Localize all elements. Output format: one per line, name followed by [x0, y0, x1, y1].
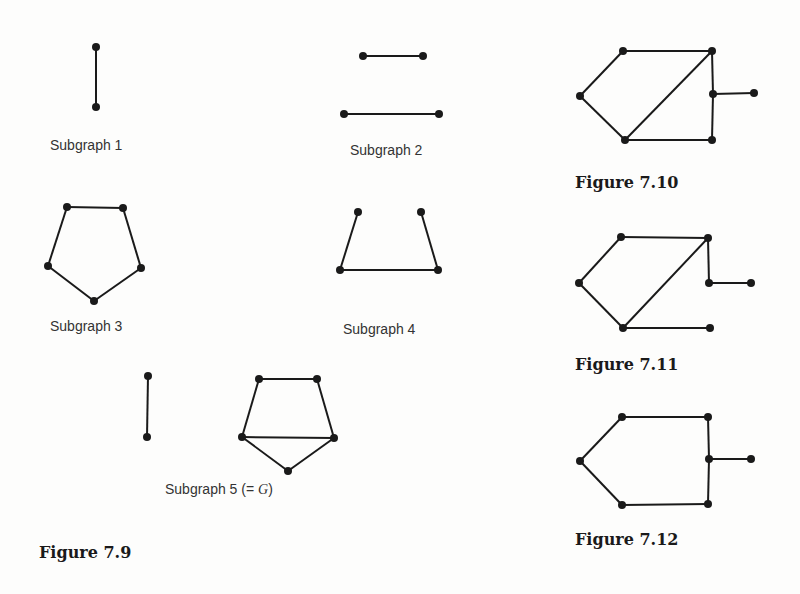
figure-7-11: [575, 233, 755, 332]
vertex: [705, 279, 713, 287]
vertex: [619, 47, 627, 55]
edge: [713, 93, 754, 94]
figure-7-10-caption: Figure 7.10: [575, 173, 678, 192]
subgraph-5: [143, 372, 338, 475]
vertex: [704, 234, 712, 242]
vertex: [621, 136, 629, 144]
vertex: [619, 324, 627, 332]
vertex: [119, 204, 127, 212]
edge: [67, 207, 123, 208]
vertex: [359, 52, 367, 60]
vertex: [336, 266, 344, 274]
edge: [242, 379, 259, 437]
caption-subgraph-3: Subgraph 3: [50, 318, 122, 334]
vertex: [144, 372, 152, 380]
edge: [621, 237, 708, 238]
edge: [708, 459, 709, 504]
vertex: [137, 264, 145, 272]
vertex: [709, 90, 717, 98]
vertex: [708, 136, 716, 144]
figure-7-9-caption: Figure 7.9: [39, 543, 131, 562]
edge: [712, 51, 713, 94]
vertex: [92, 103, 100, 111]
figure-7-12: [576, 413, 755, 509]
edge: [708, 238, 709, 283]
figure-7-10: [576, 47, 758, 144]
edge: [625, 51, 712, 140]
vertex: [617, 233, 625, 241]
vertex: [750, 89, 758, 97]
edge: [580, 51, 623, 96]
edge: [622, 504, 708, 505]
vertex: [618, 501, 626, 509]
edge: [712, 94, 713, 140]
vertex: [705, 455, 713, 463]
vertex: [330, 434, 338, 442]
vertex: [313, 375, 321, 383]
edge: [421, 212, 438, 270]
vertex: [63, 203, 71, 211]
edge: [317, 379, 334, 438]
vertex: [706, 324, 714, 332]
vertex: [747, 279, 755, 287]
edge: [242, 437, 334, 438]
vertex: [747, 455, 755, 463]
vertex: [434, 266, 442, 274]
caption-subgraph-5: Subgraph 5 (= G): [165, 481, 273, 498]
figure-7-11-caption: Figure 7.11: [575, 355, 678, 374]
vertex: [704, 413, 712, 421]
edge: [288, 438, 334, 471]
caption-subgraph-5-prefix: Subgraph 5 (=: [165, 481, 258, 497]
vertex: [576, 457, 584, 465]
vertex: [92, 43, 100, 51]
edge: [580, 461, 622, 505]
graph-canvas: [0, 0, 800, 594]
edge: [580, 96, 625, 140]
vertex: [575, 279, 583, 287]
subgraph-2: [340, 52, 443, 118]
caption-subgraph-5-suffix: ): [268, 481, 273, 497]
vertex: [284, 467, 292, 475]
edge: [48, 266, 94, 301]
vertex: [435, 110, 443, 118]
edge: [147, 376, 148, 437]
vertex: [708, 47, 716, 55]
edge: [340, 212, 358, 270]
vertex: [618, 413, 626, 421]
edge: [708, 417, 709, 459]
edge: [579, 237, 621, 283]
vertex: [419, 52, 427, 60]
figure-7-12-caption: Figure 7.12: [575, 530, 678, 549]
edge: [94, 268, 141, 301]
vertex: [238, 433, 246, 441]
vertex: [576, 92, 584, 100]
caption-subgraph-5-var: G: [258, 482, 268, 497]
subgraph-3: [44, 203, 145, 305]
caption-subgraph-2: Subgraph 2: [350, 142, 422, 158]
edge: [48, 207, 67, 266]
edge: [242, 437, 288, 471]
subgraph-1: [92, 43, 100, 111]
vertex: [44, 262, 52, 270]
vertex: [143, 433, 151, 441]
edge: [123, 208, 141, 268]
edge: [580, 417, 622, 461]
caption-subgraph-1: Subgraph 1: [50, 137, 122, 153]
vertex: [704, 500, 712, 508]
vertex: [90, 297, 98, 305]
vertex: [354, 208, 362, 216]
edge: [579, 283, 623, 328]
vertex: [417, 208, 425, 216]
caption-subgraph-4: Subgraph 4: [343, 321, 415, 337]
subgraph-4: [336, 208, 442, 274]
edge: [623, 238, 708, 328]
vertex: [340, 110, 348, 118]
vertex: [255, 375, 263, 383]
